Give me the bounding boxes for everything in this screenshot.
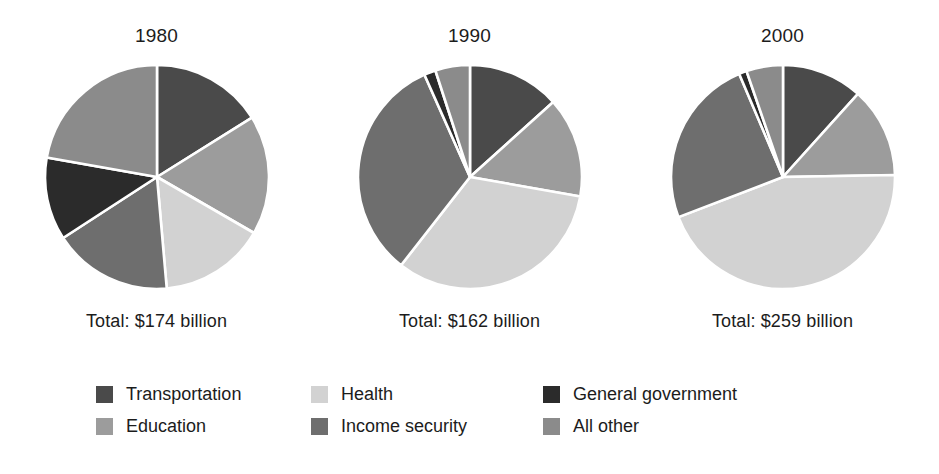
chart-legend: TransportationHealthGeneral governmentEd… xyxy=(0,378,939,474)
pie-graphic xyxy=(354,61,586,293)
legend-item-transportation: Transportation xyxy=(96,385,311,403)
chart-total-label: Total: $174 billion xyxy=(86,293,227,332)
legend-swatch-income-security xyxy=(311,418,328,435)
legend-row: TransportationHealthGeneral government xyxy=(96,378,929,410)
legend-item-general-government: General government xyxy=(543,385,737,403)
legend-label: Health xyxy=(341,385,393,403)
chart-total-label: Total: $162 billion xyxy=(399,293,540,332)
pie-chart-1980: 1980Total: $174 billion xyxy=(0,0,313,332)
chart-total-label: Total: $259 billion xyxy=(712,293,853,332)
legend-row: EducationIncome securityAll other xyxy=(96,410,929,442)
legend-swatch-education xyxy=(96,418,113,435)
legend-swatch-general-government xyxy=(543,386,560,403)
legend-item-health: Health xyxy=(311,385,543,403)
pie-chart-row: 1980Total: $174 billion1990Total: $162 b… xyxy=(0,0,939,370)
legend-swatch-transportation xyxy=(96,386,113,403)
legend-label: Income security xyxy=(341,417,467,435)
pie-graphic xyxy=(41,61,273,293)
legend-swatch-all-other xyxy=(543,418,560,435)
pie-graphic xyxy=(667,61,899,293)
pie-svg xyxy=(354,61,586,293)
legend-swatch-health xyxy=(311,386,328,403)
legend-label: All other xyxy=(573,417,639,435)
legend-label: Education xyxy=(126,417,206,435)
pie-svg xyxy=(667,61,899,293)
pie-chart-2000: 2000Total: $259 billion xyxy=(626,0,939,332)
pie-chart-1990: 1990Total: $162 billion xyxy=(313,0,626,332)
legend-label: General government xyxy=(573,385,737,403)
pie-svg xyxy=(41,61,273,293)
chart-year-label: 1980 xyxy=(135,0,178,45)
legend-item-education: Education xyxy=(96,417,311,435)
legend-item-income-security: Income security xyxy=(311,417,543,435)
legend-label: Transportation xyxy=(126,385,241,403)
legend-item-all-other: All other xyxy=(543,417,639,435)
chart-year-label: 1990 xyxy=(448,0,491,45)
pie-slice-all-other xyxy=(46,65,156,177)
chart-year-label: 2000 xyxy=(761,0,804,45)
